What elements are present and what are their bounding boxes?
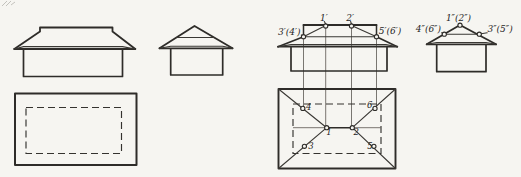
point-1-2-side: [458, 23, 462, 27]
point-3-4-front: [301, 35, 305, 39]
roof-projections-diagram: 1′ 2′ 3′(4′) 5′(6′) 4 6 1 2 3 5: [0, 0, 521, 177]
label-4-6-dblprime: 4″(6″): [415, 24, 442, 34]
label-1-plan: 1: [326, 127, 331, 137]
plan-view-labeled: 4 6 1 2 3 5: [279, 89, 396, 169]
point-1-front: [324, 24, 328, 28]
point-4-plan: [301, 106, 305, 110]
label-3-4-prime: 3′(4′): [278, 27, 301, 37]
projection-lines: [304, 26, 377, 128]
label-2-prime: 2′: [345, 13, 354, 23]
point-2-front: [349, 24, 353, 28]
plan-view-plain: [15, 94, 137, 166]
label-2-plan: 2: [353, 127, 359, 137]
roof-outline-rect: [279, 89, 396, 169]
scan-artifact: [2, 1, 15, 6]
label-3-5-dblprime: 3″(5″): [488, 24, 514, 34]
side-view-labeled: 1″(2″) 4″(6″) 3″(5″): [415, 13, 513, 72]
front-view-plain: [14, 28, 135, 77]
point-6-plan: [373, 106, 377, 110]
point-4-6-side: [442, 32, 446, 36]
point-3-5-side: [477, 32, 481, 36]
side-view-plain: [160, 26, 233, 75]
label-1-2-dblprime: 1″(2″): [446, 13, 472, 23]
label-5-plan: 5: [367, 141, 372, 151]
label-6-plan: 6: [367, 100, 373, 110]
label-4-plan: 4: [305, 102, 311, 112]
roof-outline-rect: [15, 94, 137, 166]
label-3-plan: 3: [308, 141, 313, 151]
point-3-plan: [302, 144, 306, 148]
wall-dashed-rect: [26, 108, 122, 154]
label-1-prime: 1′: [320, 13, 328, 23]
label-5-6-prime: 5′(6′): [379, 26, 402, 36]
front-view-labeled: 1′ 2′ 3′(4′) 5′(6′): [278, 13, 402, 72]
roof-projections-figure: 1′ 2′ 3′(4′) 5′(6′) 4 6 1 2 3 5: [0, 0, 521, 177]
